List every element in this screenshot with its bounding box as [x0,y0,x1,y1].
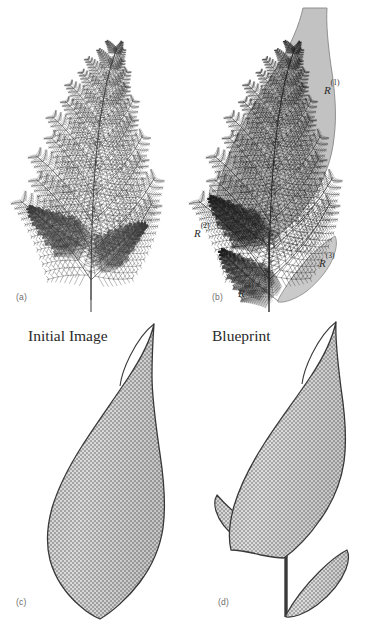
fern-regions-svg [183,0,365,312]
blueprint-svg [183,312,365,624]
region-label-r4: R(4) [238,285,253,299]
initial-image-svg [0,312,182,624]
panel-b-fern-regions [183,0,365,312]
caption-blueprint: Blueprint [212,327,271,345]
blueprint-main-blade-shading [229,322,345,558]
region-label-r1: R(1) [324,82,339,96]
panel-label-d: (d) [218,597,229,607]
panel-d-blueprint [183,312,365,624]
fern-fractal-svg [0,0,182,312]
panel-c-initial-image [0,312,182,624]
panel-label-b: (b) [212,292,223,302]
initial-blade-shading [48,324,165,619]
panel-label-c: (c) [16,597,27,607]
figure-canvas: R(1) R(2) R(3) R(4) [0,0,365,624]
caption-initial-image: Initial Image [28,327,108,345]
blueprint-right-leaflet-shading [286,550,348,617]
region-label-r2: R(2) [194,225,209,239]
region-label-r3: R(3) [319,255,334,269]
panel-a-fern-fractal [0,0,182,312]
panel-label-a: (a) [16,292,27,302]
